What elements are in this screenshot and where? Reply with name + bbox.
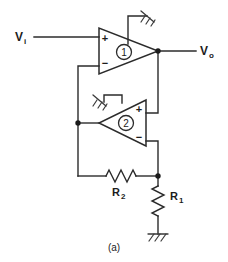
ground-r1-hatching bbox=[149, 234, 166, 241]
resistor-r2-label: R 2 bbox=[112, 186, 126, 201]
r2-subscript: 2 bbox=[121, 192, 126, 201]
r1-subscript: 1 bbox=[179, 196, 184, 205]
output-subscript: o bbox=[209, 51, 214, 60]
input-symbol: V bbox=[15, 30, 23, 44]
opamp-2-number: 2 bbox=[123, 118, 129, 129]
figure-caption: (a) bbox=[108, 242, 120, 253]
resistor-r1-zigzag bbox=[152, 186, 164, 216]
output-symbol: V bbox=[200, 44, 208, 58]
circuit-figure: 1 + − 2 + − bbox=[0, 0, 228, 262]
node-dot-feedback bbox=[75, 120, 80, 125]
input-terminal-label: V i bbox=[15, 30, 26, 46]
input-subscript: i bbox=[24, 37, 26, 46]
opamp-1-minus-pin: − bbox=[102, 57, 108, 69]
r1-symbol: R bbox=[170, 190, 178, 202]
wire-opamp1-minus-to-opamp2-output bbox=[78, 66, 99, 123]
opamp-2-minus-pin: − bbox=[136, 131, 142, 143]
resistor-r2-zigzag bbox=[106, 170, 136, 182]
node-dot-output bbox=[155, 48, 160, 53]
resistor-r1-label: R 1 bbox=[170, 190, 184, 205]
node-dot-divider bbox=[155, 173, 160, 178]
wire-output-to-opamp2-plus bbox=[146, 51, 158, 113]
opamp-1-number: 1 bbox=[121, 47, 127, 58]
r2-symbol: R bbox=[112, 186, 120, 198]
circuit-schematic-svg: 1 + − 2 + − bbox=[0, 0, 228, 262]
opamp-2-plus-pin: + bbox=[136, 103, 142, 115]
opamp-1-plus-pin: + bbox=[102, 32, 108, 44]
ground-r1 bbox=[148, 234, 168, 241]
ground-opamp-2 bbox=[93, 95, 107, 110]
opamp-2: 2 + − bbox=[99, 100, 146, 146]
output-terminal-label: V o bbox=[200, 44, 214, 60]
ground-opamp-1 bbox=[141, 11, 155, 26]
wire-opamp2-ground-lead bbox=[104, 95, 122, 103]
wire-opamp2-minus-to-r1node bbox=[146, 141, 158, 176]
